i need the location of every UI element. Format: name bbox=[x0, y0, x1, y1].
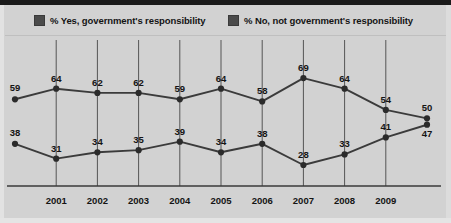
data-label: 34 bbox=[216, 136, 227, 147]
data-label: 50 bbox=[422, 102, 433, 113]
data-label: 58 bbox=[257, 85, 268, 96]
data-label: 59 bbox=[175, 83, 186, 94]
frame-edge-right bbox=[446, 5, 451, 223]
chart-svg: 5964626259645869645450383134353934382833… bbox=[5, 36, 446, 218]
x-tick-2006: 2006 bbox=[252, 195, 273, 206]
chart-legend: % Yes, government's responsibility % No,… bbox=[0, 10, 451, 32]
data-point bbox=[342, 151, 348, 157]
data-point bbox=[218, 86, 224, 92]
gridlines-group bbox=[56, 40, 386, 186]
data-label: 47 bbox=[422, 128, 433, 139]
chart-screenshot: % Yes, government's responsibility % No,… bbox=[0, 0, 451, 223]
x-tick-2002: 2002 bbox=[87, 195, 108, 206]
data-point bbox=[177, 96, 183, 102]
data-label: 41 bbox=[381, 121, 392, 132]
data-point bbox=[218, 149, 224, 155]
data-label: 64 bbox=[216, 73, 227, 84]
data-label: 38 bbox=[10, 127, 21, 138]
data-label: 62 bbox=[92, 77, 103, 88]
data-label: 31 bbox=[51, 143, 62, 154]
legend-label-no: % No, not government's responsibility bbox=[244, 15, 413, 26]
data-point bbox=[300, 75, 306, 81]
legend-item-yes: % Yes, government's responsibility bbox=[34, 12, 206, 28]
data-point bbox=[259, 98, 265, 104]
data-point bbox=[342, 86, 348, 92]
data-point bbox=[136, 90, 142, 96]
data-point bbox=[12, 96, 18, 102]
data-point bbox=[94, 149, 100, 155]
legend-item-no: % No, not government's responsibility bbox=[228, 12, 413, 28]
data-label: 54 bbox=[381, 94, 392, 105]
data-label: 33 bbox=[339, 138, 350, 149]
x-tick-2001: 2001 bbox=[46, 195, 68, 206]
x-tick-2009: 2009 bbox=[375, 195, 396, 206]
data-point bbox=[12, 141, 18, 147]
data-label: 39 bbox=[175, 126, 186, 137]
data-point bbox=[383, 134, 389, 140]
legend-swatch-yes-icon bbox=[34, 15, 45, 26]
data-point bbox=[53, 156, 59, 162]
frame-edge-left bbox=[0, 5, 4, 223]
legend-label-yes: % Yes, government's responsibility bbox=[50, 15, 206, 26]
data-label: 34 bbox=[92, 136, 103, 147]
x-tick-labels-group: 200120022003200420052006200720082009 bbox=[46, 195, 397, 206]
x-tick-2004: 2004 bbox=[169, 195, 191, 206]
x-tick-2005: 2005 bbox=[210, 195, 232, 206]
x-tick-2007: 2007 bbox=[293, 195, 314, 206]
data-point bbox=[383, 107, 389, 113]
data-label: 35 bbox=[133, 134, 144, 145]
data-label: 59 bbox=[10, 82, 21, 93]
x-tick-2008: 2008 bbox=[334, 195, 355, 206]
frame-edge-bottom bbox=[0, 218, 451, 223]
chart-plot-area: 5964626259645869645450383134353934382833… bbox=[5, 36, 446, 218]
data-point bbox=[177, 139, 183, 145]
data-label: 69 bbox=[298, 62, 309, 73]
data-label: 64 bbox=[51, 73, 62, 84]
data-label: 64 bbox=[339, 73, 350, 84]
data-point bbox=[424, 115, 430, 121]
data-label: 28 bbox=[298, 149, 309, 160]
data-point bbox=[136, 147, 142, 153]
data-point bbox=[94, 90, 100, 96]
data-point bbox=[259, 141, 265, 147]
top-accent-band bbox=[0, 0, 451, 5]
data-label: 38 bbox=[257, 128, 268, 139]
legend-swatch-no-icon bbox=[228, 15, 239, 26]
data-label: 62 bbox=[133, 77, 144, 88]
data-point bbox=[53, 86, 59, 92]
data-point bbox=[300, 162, 306, 168]
x-tick-2003: 2003 bbox=[128, 195, 149, 206]
